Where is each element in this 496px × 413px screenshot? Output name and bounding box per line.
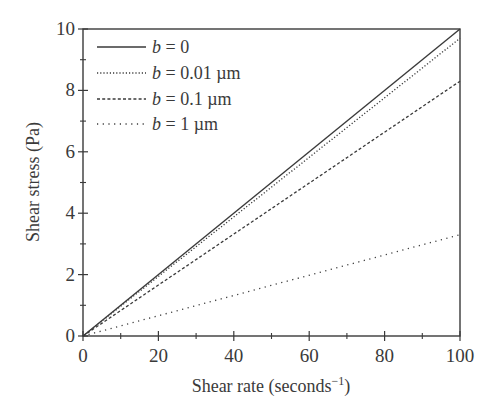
y-tick-label: 0 [66, 325, 76, 346]
legend: b = 0b = 0.01 µmb = 0.1 µmb = 1 µm [97, 37, 241, 134]
x-tick-label: 100 [446, 345, 475, 366]
y-tick-label: 6 [66, 141, 76, 162]
legend-label: b = 0 [152, 37, 189, 57]
series-line [83, 81, 460, 336]
legend-label: b = 1 µm [152, 114, 218, 134]
legend-label: b = 0.01 µm [152, 63, 241, 83]
series-line [83, 29, 460, 336]
x-tick-label: 80 [375, 345, 394, 366]
y-tick-label: 4 [66, 202, 76, 223]
series-line [83, 38, 460, 336]
x-axis-title: Shear rate (seconds−1) [192, 374, 351, 397]
legend-label: b = 0.1 µm [152, 89, 232, 109]
tick-labels: 0204060801000246810 [56, 18, 474, 366]
data-series [83, 29, 460, 336]
series-line [83, 235, 460, 336]
x-tick-label: 0 [78, 345, 88, 366]
x-tick-label: 40 [224, 345, 243, 366]
y-tick-label: 8 [66, 79, 76, 100]
y-axis-title: Shear stress (Pa) [23, 122, 44, 242]
shear-stress-chart: 0204060801000246810 b = 0b = 0.01 µmb = … [0, 0, 496, 413]
x-tick-label: 60 [300, 345, 319, 366]
x-tick-label: 20 [149, 345, 168, 366]
y-tick-label: 10 [56, 18, 75, 39]
y-tick-label: 2 [66, 264, 76, 285]
